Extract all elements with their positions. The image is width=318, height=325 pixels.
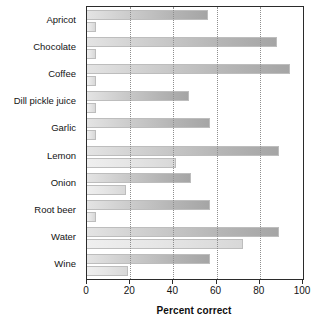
bar-group [87,225,303,252]
bar-group [87,89,303,116]
bar-garlic-series-1 [87,118,210,128]
y-axis-label-cell: Garlic [0,115,80,142]
bar-lemon-series-1 [87,146,279,156]
y-axis-label: Root beer [34,205,76,215]
y-axis-label: Coffee [48,69,76,79]
x-tick-label-100: 100 [294,285,311,297]
y-axis-label: Apricot [46,15,76,25]
bar-onion-series-2 [87,185,126,195]
y-axis-label: Wine [54,259,76,269]
y-axis-label-cell: Coffee [0,60,80,87]
bar-water-series-1 [87,227,279,237]
y-axis-label: Onion [51,178,76,188]
bar-chocolate-series-2 [87,49,96,59]
y-axis-label: Chocolate [33,42,76,52]
bar-chart: ApricotChocolateCoffeeDill pickle juiceG… [0,0,318,325]
x-tick-label-0: 0 [83,285,89,297]
x-axis-tick-labels: 020406080100 [86,285,302,299]
bar-dill-pickle-juice-series-1 [87,91,189,101]
y-axis-label: Garlic [51,123,76,133]
y-axis-category-labels: ApricotChocolateCoffeeDill pickle juiceG… [0,6,80,278]
bar-group [87,116,303,143]
bar-garlic-series-2 [87,130,96,140]
plot-area [86,6,304,280]
bar-coffee-series-1 [87,64,290,74]
y-axis-label: Dill pickle juice [14,96,76,106]
x-tick-label-60: 60 [210,285,221,297]
bar-chocolate-series-1 [87,37,277,47]
y-axis-label: Water [51,232,76,242]
bar-wine-series-1 [87,254,210,264]
tick-mark-80 [259,280,260,284]
y-axis-label-cell: Lemon [0,142,80,169]
bars-layer [87,7,303,279]
y-axis-label-cell: Apricot [0,6,80,33]
bar-root-beer-series-2 [87,212,96,222]
x-tick-label-40: 40 [167,285,178,297]
bar-group [87,34,303,61]
y-axis-label-cell: Dill pickle juice [0,88,80,115]
tick-mark-60 [216,280,217,284]
tick-mark-100 [302,280,303,284]
bar-wine-series-2 [87,266,128,276]
y-axis-label-cell: Chocolate [0,33,80,60]
bar-group [87,197,303,224]
tick-mark-0 [86,280,87,284]
bar-onion-series-1 [87,173,191,183]
tick-mark-40 [172,280,173,284]
bar-apricot-series-2 [87,22,96,32]
bar-coffee-series-2 [87,76,96,86]
y-axis-label-cell: Wine [0,251,80,278]
bar-lemon-series-2 [87,158,176,168]
bar-water-series-2 [87,239,243,249]
bar-group [87,252,303,279]
x-axis-title: Percent correct [86,305,302,316]
bar-root-beer-series-1 [87,200,210,210]
bar-dill-pickle-juice-series-2 [87,103,96,113]
y-axis-label-cell: Root beer [0,196,80,223]
x-tick-label-80: 80 [253,285,264,297]
bar-group [87,7,303,34]
bar-group [87,61,303,88]
y-axis-label: Lemon [47,151,76,161]
x-tick-label-20: 20 [124,285,135,297]
tick-mark-20 [129,280,130,284]
bar-group [87,170,303,197]
bar-apricot-series-1 [87,10,208,20]
bar-group [87,143,303,170]
y-axis-label-cell: Water [0,224,80,251]
y-axis-label-cell: Onion [0,169,80,196]
